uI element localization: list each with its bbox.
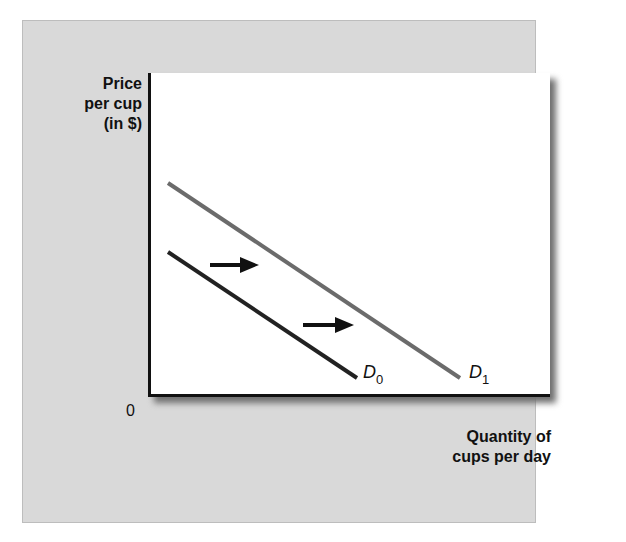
d0-curve: [168, 252, 357, 378]
d0-label: D0: [363, 362, 383, 387]
demand-chart: D0 D1: [0, 0, 626, 542]
shift-arrow-icon: [210, 257, 259, 273]
d1-label: D1: [469, 362, 489, 387]
shift-arrow-icon: [303, 317, 354, 333]
